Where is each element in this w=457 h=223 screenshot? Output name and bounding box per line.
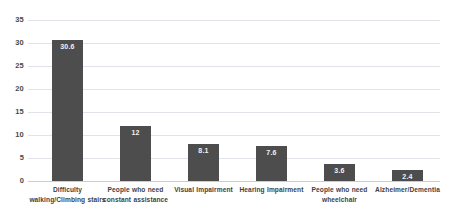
y-axis-tick: 10 [2,131,24,139]
bar-value-label: 2.4 [392,172,423,181]
bar-value-label: 8.1 [188,146,219,155]
x-axis-label: Alzheimer/Dementia [368,185,447,195]
y-axis-tick: 35 [2,16,24,24]
bar[interactable]: 2.4 [392,170,423,181]
bar[interactable]: 30.6 [52,40,83,181]
bar-value-label: 12 [120,128,151,137]
y-axis-tick: 20 [2,85,24,93]
bar[interactable]: 3.6 [324,164,355,181]
bars-layer: 30.6 12 8.1 7.6 3.6 2.4 [28,14,440,187]
bar-value-label: 30.6 [52,42,83,51]
bar-value-label: 7.6 [256,148,287,157]
y-axis-tick: 0 [2,177,24,185]
bar[interactable]: 7.6 [256,146,287,181]
bar-chart: 35 30 25 20 15 10 5 0 30.6 12 8.1 7.6 [0,0,457,223]
y-axis-tick: 25 [2,62,24,70]
y-axis: 35 30 25 20 15 10 5 0 [0,14,24,187]
y-axis-tick: 15 [2,108,24,116]
bar-value-label: 3.6 [324,166,355,175]
y-axis-tick: 30 [2,39,24,47]
bar[interactable]: 12 [120,126,151,181]
bar[interactable]: 8.1 [188,144,219,181]
y-axis-tick: 5 [2,154,24,162]
x-axis: Difficulty walking/Climbing stairs Peopl… [28,185,440,223]
